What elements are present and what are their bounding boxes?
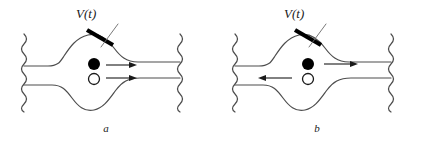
flow-arrow-lower	[106, 75, 137, 81]
filled-particle-icon	[302, 58, 314, 70]
flow-arrow-upper	[106, 62, 137, 68]
left-edge-squiggle-icon	[233, 34, 238, 112]
gate-voltage-label: V(t)	[284, 6, 304, 22]
panel-caption-a: a	[0, 122, 212, 134]
right-edge-squiggle-icon	[389, 34, 394, 112]
panel-b: V(t) b	[211, 0, 423, 142]
figure-root: V(t) a	[0, 0, 423, 142]
flow-arrow-left	[258, 75, 292, 81]
panel-b-diagram	[211, 0, 423, 142]
filled-particle-icon	[88, 58, 100, 70]
channel-lower-wall	[24, 78, 180, 110]
panel-a: V(t) a	[0, 0, 212, 142]
gate-electrode-bar	[87, 30, 113, 45]
open-particle-icon	[303, 74, 314, 85]
panel-a-diagram	[0, 0, 212, 142]
right-edge-squiggle-icon	[178, 34, 183, 112]
gate-electrode-bar	[295, 30, 321, 45]
open-particle-icon	[89, 74, 100, 85]
left-edge-squiggle-icon	[22, 34, 27, 112]
gate-voltage-label: V(t)	[76, 6, 96, 22]
channel-lower-wall	[235, 78, 391, 110]
panel-caption-b: b	[211, 122, 423, 134]
